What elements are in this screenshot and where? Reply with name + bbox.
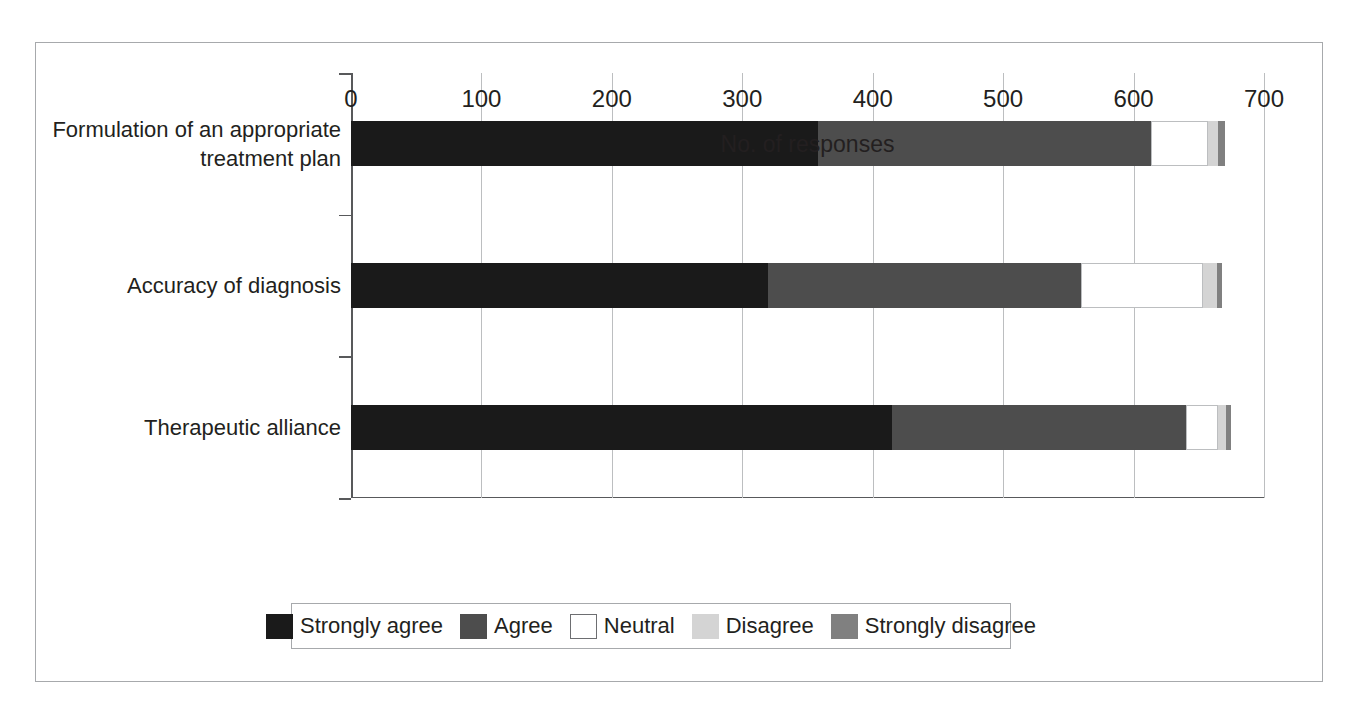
bar-row	[351, 405, 1231, 450]
bar-row	[351, 263, 1222, 308]
legend-swatch	[692, 614, 719, 639]
gridline	[1264, 73, 1265, 498]
category-axis-labels: Formulation of an appropriate treatment …	[36, 73, 341, 498]
x-tick-label: 0	[344, 85, 357, 113]
x-tick-label: 600	[1114, 85, 1154, 113]
legend-swatch	[460, 614, 487, 639]
legend-swatch	[570, 614, 597, 639]
legend-label: Agree	[494, 613, 553, 639]
bar-segment	[351, 405, 892, 450]
chart-legend: Strongly agreeAgreeNeutralDisagreeStrong…	[291, 603, 1011, 649]
x-tick-label: 300	[722, 85, 762, 113]
legend-swatch	[831, 614, 858, 639]
legend-label: Neutral	[604, 613, 675, 639]
x-tick-label: 700	[1244, 85, 1284, 113]
bar-segment	[1218, 405, 1226, 450]
legend-item: Strongly disagree	[831, 613, 1036, 639]
x-tick-label: 100	[461, 85, 501, 113]
y-axis-top-cap	[339, 73, 351, 75]
category-label: Accuracy of diagnosis	[31, 271, 341, 300]
x-tick-label: 500	[983, 85, 1023, 113]
plot-area: 0100200300400500600700 No. of responses	[351, 73, 1264, 498]
x-tick-label: 200	[592, 85, 632, 113]
category-label: Therapeutic alliance	[31, 413, 341, 442]
legend-label: Strongly agree	[300, 613, 443, 639]
bar-segment	[1203, 263, 1217, 308]
bar-segment	[892, 405, 1185, 450]
category-label: Formulation of an appropriate treatment …	[31, 115, 341, 173]
bar-segment	[1081, 263, 1202, 308]
legend-label: Disagree	[726, 613, 814, 639]
bar-segment	[1217, 263, 1222, 308]
bar-segment	[1226, 405, 1231, 450]
bar-segment	[1186, 405, 1219, 450]
legend-swatch	[266, 614, 293, 639]
x-tick-label: 400	[853, 85, 893, 113]
y-axis-bottom-cap	[339, 498, 351, 500]
chart-figure: Formulation of an appropriate treatment …	[35, 42, 1323, 682]
legend-item: Agree	[460, 613, 553, 639]
legend-item: Neutral	[570, 613, 675, 639]
bar-segment	[768, 263, 1081, 308]
bar-segment	[351, 263, 768, 308]
x-axis-line	[351, 497, 1264, 499]
y-axis-tick	[339, 215, 351, 217]
legend-item: Strongly agree	[266, 613, 443, 639]
legend-item: Disagree	[692, 613, 814, 639]
legend-label: Strongly disagree	[865, 613, 1036, 639]
y-axis-tick	[339, 356, 351, 358]
x-axis-title: No. of responses	[351, 131, 1264, 158]
